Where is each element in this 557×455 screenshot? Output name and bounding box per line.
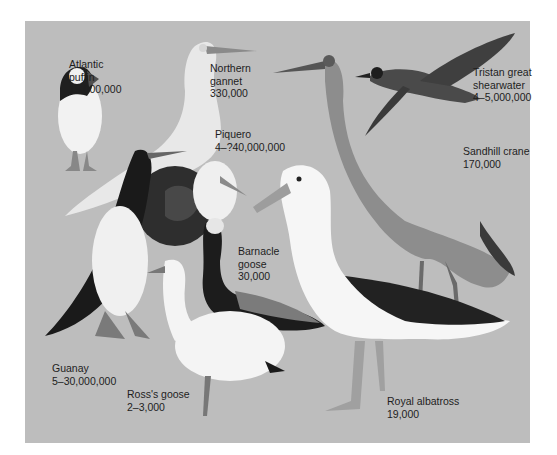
bird-name-line: Sandhill crane [463,145,530,158]
bird-name-line: Tristan great [473,66,532,79]
bird-population: 30,000 [238,270,279,283]
piquero-illustration [135,161,247,246]
bird-name-line: Northern [210,62,251,75]
bird-name-line: shearwater [473,79,532,92]
bird-name-line: Guanay [52,362,116,375]
bird-population: 4–5,000,000 [473,91,532,104]
bird-population: 19,000 [387,408,459,421]
bird-population: 2–3,000 [127,401,190,414]
faint-header-strip [25,0,500,8]
label-ross-goose: Ross's goose 2–3,000 [127,388,190,413]
label-sandhill-crane: Sandhill crane 170,000 [463,145,530,170]
bird-population: 4–?40,000,000 [215,141,285,154]
bird-name-line: Atlantic [69,58,122,71]
bird-population: 170,000 [463,158,530,171]
label-guanay: Guanay 5–30,000,000 [52,362,116,387]
label-piquero: Piquero 4–?40,000,000 [215,128,285,153]
label-royal-albatross: Royal albatross 19,000 [387,395,459,420]
label-tristan-great-shearwater: Tristan great shearwater 4–5,000,000 [473,66,532,104]
bird-name-line: puffin [69,71,122,84]
bird-name-line: gannet [210,75,251,88]
label-atlantic-puffin: Atlantic puffin 15,000,000 [69,58,122,96]
bird-name-line: Royal albatross [387,395,459,408]
bird-population: 5–30,000,000 [52,375,116,388]
bird-population: 15,000,000 [69,83,122,96]
label-northern-gannet: Northern gannet 330,000 [210,62,251,100]
label-barnacle-goose: Barnacle goose 30,000 [238,245,279,283]
bird-name-line: goose [238,258,279,271]
bird-name-line: Ross's goose [127,388,190,401]
bird-name-line: Piquero [215,128,285,141]
seabird-illustration-plate: Atlantic puffin 15,000,000 Northern gann… [25,21,530,443]
bird-name-line: Barnacle [238,245,279,258]
bird-population: 330,000 [210,87,251,100]
